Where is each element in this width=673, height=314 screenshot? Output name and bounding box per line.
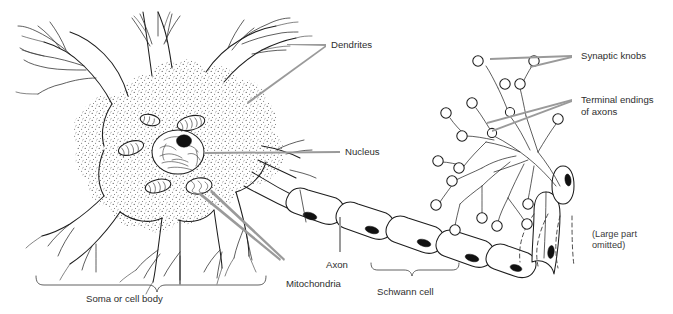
synaptic-knob [473, 56, 483, 66]
label-omitted-line2: omitted) [592, 240, 625, 250]
synaptic-knob [454, 163, 464, 173]
synaptic-knob [522, 219, 532, 229]
synaptic-knob [523, 199, 533, 209]
synaptic-knob [447, 176, 457, 186]
synaptic-knob [467, 98, 477, 108]
label-terminal-endings-line2: of axons [581, 106, 617, 117]
label-axon: Axon [326, 259, 348, 270]
synaptic-knob [431, 200, 441, 210]
label-omitted-line1: (Large part [592, 229, 637, 239]
synaptic-knob [515, 79, 525, 89]
synaptic-knob [433, 156, 443, 166]
neuron-diagram: Dendrites Nucleus Axon Mitochondria Schw… [0, 0, 673, 314]
synaptic-knob [457, 131, 467, 141]
synaptic-knob [450, 225, 460, 235]
nucleolus [177, 135, 192, 147]
label-schwann-cell: Schwann cell [377, 286, 434, 297]
label-soma: Soma or cell body [86, 293, 163, 304]
synaptic-knob [441, 108, 451, 118]
synaptic-knob [500, 79, 510, 89]
nucleus-group [152, 130, 204, 174]
synaptic-knob [553, 114, 563, 124]
synaptic-knob [492, 221, 502, 231]
label-synaptic-knobs: Synaptic knobs [581, 50, 646, 61]
label-nucleus: Nucleus [345, 146, 380, 157]
label-terminal-endings-line1: Terminal endings [581, 94, 654, 105]
synaptic-knob [477, 213, 487, 223]
label-mitochondria: Mitochondria [286, 278, 342, 289]
label-dendrites: Dendrites [331, 39, 372, 50]
leader-axon [339, 217, 341, 252]
